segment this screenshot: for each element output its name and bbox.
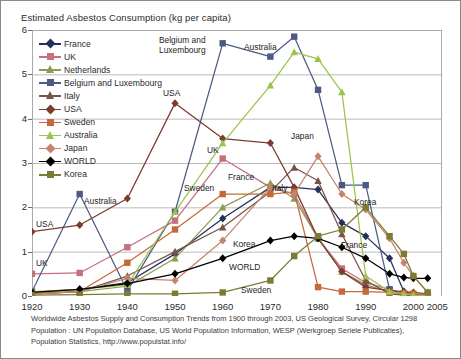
series-marker	[401, 251, 407, 257]
legend-diamond-icon	[46, 104, 56, 114]
x-axis-label-1950: 1950	[155, 301, 195, 312]
legend-marker-icon	[39, 64, 61, 75]
y-tick-3	[28, 163, 32, 164]
legend-diamond-icon	[46, 156, 56, 166]
y-axis-label-4: 4	[15, 113, 27, 124]
legend-item-netherlands[interactable]: Netherlands	[39, 63, 189, 76]
y-axis-label-3: 3	[15, 157, 27, 168]
annotation-uk: UK	[207, 146, 219, 156]
series-marker	[315, 87, 321, 93]
legend-label: USA	[64, 104, 82, 114]
series-marker	[291, 33, 297, 39]
y-tick-2	[28, 207, 32, 208]
legend-item-usa[interactable]: USA	[39, 102, 189, 115]
series-marker	[124, 260, 130, 266]
legend-triangle-icon	[46, 65, 54, 73]
y-axis-label-6: 6	[15, 24, 27, 35]
series-marker	[76, 191, 82, 197]
y-tick-4	[28, 119, 32, 120]
series-marker	[124, 244, 130, 250]
series-marker	[291, 253, 297, 259]
legend-marker-icon	[39, 104, 61, 115]
series-marker	[32, 292, 35, 296]
series-marker	[315, 233, 321, 239]
footnote-line-2: Population : UN Population Database, US …	[31, 325, 417, 337]
legend-label: UK	[64, 52, 76, 62]
legend-label: Sweden	[64, 117, 95, 127]
legend-label: WORLD	[64, 156, 96, 166]
y-tick-6	[28, 30, 32, 31]
footnote-line-3: Population Statistics, http://www.populs…	[31, 336, 417, 348]
legend-diamond-icon	[46, 143, 56, 153]
series-marker	[172, 217, 178, 223]
legend-label: Italy	[64, 91, 80, 101]
series-marker	[363, 288, 369, 294]
series-marker	[267, 53, 273, 59]
y-tick-1	[28, 252, 32, 253]
series-marker	[219, 191, 225, 197]
x-axis-label-1970: 1970	[250, 301, 290, 312]
annotation-usa: USA	[36, 220, 53, 230]
series-marker	[315, 284, 321, 290]
annotation-korea: Korea	[233, 240, 255, 250]
series-marker	[424, 289, 430, 295]
series-marker	[267, 277, 273, 283]
series-marker	[172, 226, 178, 232]
series-marker	[124, 291, 130, 296]
annotation-sweden: Sweden	[184, 184, 214, 194]
y-tick-0	[28, 296, 32, 297]
chart-title: Estimated Asbestos Consumption (kg per c…	[21, 12, 231, 23]
x-axis-label-1940: 1940	[107, 301, 147, 312]
legend-marker-icon	[39, 38, 61, 49]
legend-item-sweden[interactable]: Sweden	[39, 116, 189, 129]
annotation-luxembourg: Luxembourg	[159, 46, 206, 56]
annotation-italy: Italy	[272, 184, 287, 194]
annotation-australia: Australia	[244, 43, 277, 53]
series-marker	[219, 289, 225, 295]
y-axis-label-1: 1	[15, 246, 27, 257]
y-tick-5	[28, 74, 32, 75]
legend-label: Japan	[64, 143, 87, 153]
legend-square-icon	[47, 53, 54, 60]
x-axis-label-1930: 1930	[60, 301, 100, 312]
x-axis-label-2005: 2005	[417, 301, 457, 312]
legend-label: Korea	[64, 169, 87, 179]
chart-figure: Estimated Asbestos Consumption (kg per c…	[0, 0, 461, 359]
footnote-line-1: Worldwide Asbestos Supply and Consumptio…	[31, 313, 417, 325]
legend-square-icon	[47, 79, 54, 86]
legend-triangle-icon	[46, 131, 54, 139]
legend-label: Netherlands	[64, 65, 110, 75]
annotation-japan: Japan	[291, 132, 314, 142]
annotation-france: France	[228, 173, 254, 183]
series-marker	[410, 273, 416, 279]
legend-item-australia[interactable]: Australia	[39, 129, 189, 142]
series-marker	[339, 182, 345, 188]
legend-marker-icon	[39, 77, 61, 88]
legend-item-world[interactable]: WORLD	[39, 155, 189, 168]
series-marker	[339, 226, 345, 232]
legend-item-korea[interactable]: Korea	[39, 168, 189, 181]
series-marker	[363, 182, 369, 188]
legend-marker-icon	[39, 169, 61, 180]
legend-diamond-icon	[46, 39, 56, 49]
legend-marker-icon	[39, 143, 61, 154]
annotation-uk: UK	[36, 259, 48, 269]
legend-label: France	[64, 39, 91, 49]
legend-item-japan[interactable]: Japan	[39, 142, 189, 155]
annotation-australia: Australia	[84, 197, 117, 207]
chart-footnote: Worldwide Asbestos Supply and Consumptio…	[31, 313, 417, 348]
annotation-korea: Korea	[354, 198, 376, 208]
legend-label: Australia	[64, 130, 97, 140]
legend-square-icon	[47, 119, 54, 126]
x-axis-label-1990: 1990	[346, 301, 386, 312]
y-axis-label-0: 0	[15, 290, 27, 301]
x-axis-label-1960: 1960	[203, 301, 243, 312]
legend-triangle-icon	[46, 91, 54, 99]
legend-marker-icon	[39, 90, 61, 101]
series-marker	[386, 233, 392, 239]
legend-square-icon	[47, 171, 54, 178]
x-axis-label-1920: 1920	[12, 301, 52, 312]
legend-label: Belgium and Luxembourg	[64, 78, 162, 88]
series-marker	[219, 155, 225, 161]
annotation-usa: USA	[163, 89, 180, 99]
